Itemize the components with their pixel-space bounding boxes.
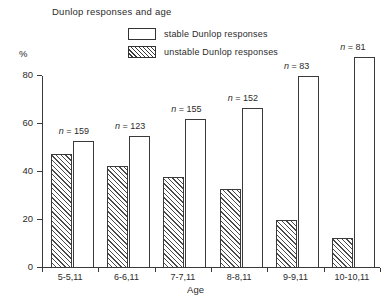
bar-group: n = 155 bbox=[163, 76, 206, 268]
y-tick-label-20: 20 bbox=[22, 213, 33, 224]
bar-group: n = 123 bbox=[107, 76, 150, 268]
chart-title: Dunlop responses and age bbox=[52, 6, 172, 17]
bar-stable bbox=[73, 141, 94, 268]
y-tick-60: 60 bbox=[37, 123, 42, 124]
bar-unstable bbox=[220, 189, 241, 268]
bar-n-annotation: n = 155 bbox=[171, 104, 201, 114]
x-category-label: 10-10,11 bbox=[324, 272, 380, 282]
legend-label-stable: stable Dunlop responses bbox=[164, 29, 268, 39]
y-tick-label-60: 60 bbox=[22, 117, 33, 128]
x-category-label: 5-5,11 bbox=[42, 272, 98, 282]
bar-stable bbox=[354, 57, 375, 268]
bar-group: n = 83 bbox=[276, 76, 319, 268]
bar-unstable bbox=[51, 154, 72, 268]
y-axis-title: % bbox=[19, 48, 27, 59]
bar-n-annotation: n = 152 bbox=[228, 93, 258, 103]
y-tick-40: 40 bbox=[37, 171, 42, 172]
bar-stable bbox=[129, 136, 150, 268]
bar-stable bbox=[185, 119, 206, 268]
bar-stable bbox=[298, 76, 319, 268]
plot-area: 020406080 n = 159n = 123n = 155n = 152n … bbox=[42, 76, 380, 268]
x-axis-title: Age bbox=[0, 284, 391, 295]
y-tick-label-0: 0 bbox=[28, 261, 33, 272]
legend-swatch-stable-icon bbox=[128, 28, 156, 40]
x-category-label: 6-6,11 bbox=[98, 272, 154, 282]
bar-unstable bbox=[107, 166, 128, 268]
x-category-label: 9-9,11 bbox=[267, 272, 323, 282]
chart-figure: Dunlop responses and age stable Dunlop r… bbox=[0, 0, 391, 306]
bar-unstable bbox=[332, 238, 353, 268]
bar-n-annotation: n = 159 bbox=[59, 126, 89, 136]
bar-stable bbox=[242, 108, 263, 268]
chart-legend: stable Dunlop responses unstable Dunlop … bbox=[128, 26, 278, 62]
y-tick-20: 20 bbox=[37, 219, 42, 220]
legend-label-unstable: unstable Dunlop responses bbox=[164, 47, 278, 57]
x-category-label: 7-7,11 bbox=[155, 272, 211, 282]
bar-group: n = 159 bbox=[51, 76, 94, 268]
bar-unstable bbox=[276, 220, 297, 268]
bar-n-annotation: n = 83 bbox=[284, 61, 309, 71]
y-tick-label-40: 40 bbox=[22, 165, 33, 176]
y-tick-80: 80 bbox=[37, 75, 42, 76]
legend-swatch-unstable-icon bbox=[128, 46, 156, 58]
bar-group: n = 152 bbox=[220, 76, 263, 268]
bar-unstable bbox=[163, 177, 184, 268]
y-tick-label-80: 80 bbox=[22, 69, 33, 80]
legend-item-unstable: unstable Dunlop responses bbox=[128, 44, 278, 59]
legend-item-stable: stable Dunlop responses bbox=[128, 26, 278, 41]
y-axis-line bbox=[42, 76, 43, 268]
bar-group: n = 81 bbox=[332, 76, 375, 268]
x-tick bbox=[380, 268, 381, 272]
x-category-label: 8-8,11 bbox=[211, 272, 267, 282]
bar-n-annotation: n = 81 bbox=[340, 42, 365, 52]
bar-n-annotation: n = 123 bbox=[115, 121, 145, 131]
